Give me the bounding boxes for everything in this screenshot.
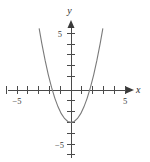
parabola-graph-figure: x y −5 5 5 −5 xyxy=(0,0,150,162)
plot-area: x y −5 5 5 −5 xyxy=(0,0,150,162)
x-axis-arrow-icon xyxy=(126,87,134,94)
x-axis-label: x xyxy=(135,84,141,95)
x-tick-label-neg5: −5 xyxy=(12,96,21,106)
x-tick-label-pos5: 5 xyxy=(123,96,127,106)
y-tick-label-neg5: −5 xyxy=(55,140,64,150)
y-tick-label-pos5: 5 xyxy=(58,29,62,39)
y-axis-label: y xyxy=(66,5,72,16)
y-axis-arrow-icon xyxy=(68,20,75,28)
